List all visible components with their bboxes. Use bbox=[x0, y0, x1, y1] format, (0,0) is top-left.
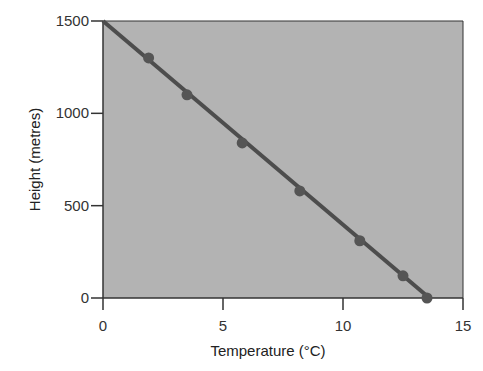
y-axis-title: Height (metres) bbox=[26, 108, 43, 211]
data-point bbox=[422, 293, 433, 304]
data-point bbox=[294, 185, 305, 196]
data-point bbox=[143, 52, 154, 63]
y-tick-label: 1500 bbox=[56, 12, 89, 29]
data-point bbox=[398, 270, 409, 281]
data-point bbox=[237, 137, 248, 148]
data-point bbox=[354, 235, 365, 246]
plot-area bbox=[103, 21, 463, 298]
x-axis-title: Temperature (°C) bbox=[210, 342, 325, 359]
y-tick-label: 0 bbox=[81, 289, 89, 306]
x-tick-label: 5 bbox=[219, 317, 227, 334]
y-tick-label: 1000 bbox=[56, 104, 89, 121]
x-tick-label: 0 bbox=[99, 317, 107, 334]
data-point bbox=[182, 89, 193, 100]
line-chart: 050010001500051015Temperature (°C)Height… bbox=[0, 0, 483, 371]
x-tick-label: 10 bbox=[335, 317, 352, 334]
y-tick-label: 500 bbox=[64, 197, 89, 214]
x-tick-label: 15 bbox=[455, 317, 472, 334]
